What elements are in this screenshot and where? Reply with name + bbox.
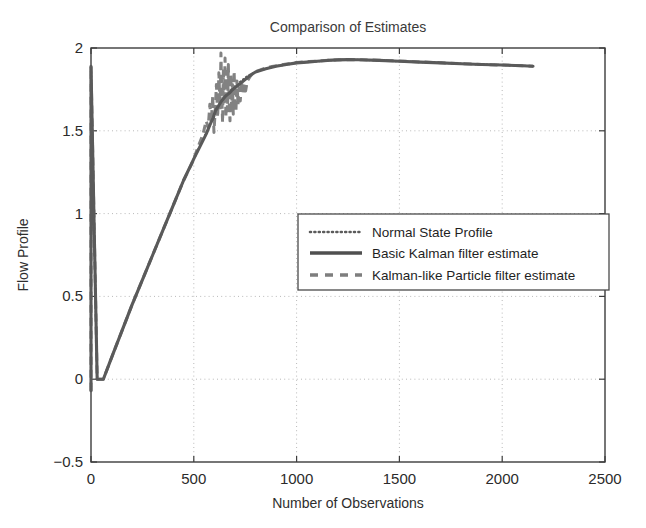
chart-legend[interactable]: Normal State Profile Basic Kalman filter… (298, 214, 609, 290)
y-tick-label: 1.5 (62, 122, 83, 139)
chart-figure: Comparison of Estimates −0.500.511.52 05… (0, 0, 646, 528)
x-tick-label: 1500 (383, 470, 416, 487)
y-tick-label: −0.5 (53, 453, 83, 470)
legend-label-kalman-like-particle-filter-estimate: Kalman-like Particle filter estimate (372, 268, 575, 283)
x-tick-label: 1000 (280, 470, 313, 487)
y-tick-label: 0.5 (62, 287, 83, 304)
legend-label-normal-state-profile: Normal State Profile (372, 225, 493, 240)
x-tick-label: 500 (181, 470, 206, 487)
legend-label-basic-kalman-filter-estimate: Basic Kalman filter estimate (372, 246, 539, 261)
x-tick-label: 2500 (588, 470, 621, 487)
x-axis-label: Number of Observations (272, 495, 424, 511)
chart-title: Comparison of Estimates (270, 19, 426, 35)
y-tick-label: 2 (75, 39, 83, 56)
comparison-of-estimates-chart: Comparison of Estimates −0.500.511.52 05… (0, 0, 646, 528)
x-tick-label: 0 (87, 470, 95, 487)
y-tick-label: 1 (75, 205, 83, 222)
y-axis-label: Flow Profile (15, 218, 31, 291)
x-tick-label: 2000 (486, 470, 519, 487)
y-tick-label: 0 (75, 370, 83, 387)
